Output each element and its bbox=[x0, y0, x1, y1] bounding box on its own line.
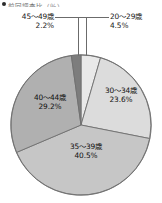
callout-20-29-percent: 4.5% bbox=[110, 21, 162, 30]
slice-30-34-name: 30〜34歳 bbox=[105, 86, 137, 95]
pie-chart bbox=[10, 54, 152, 196]
callout-label-45-49: 45〜49歳 2.2% bbox=[4, 12, 54, 31]
header-fragment-text: 前回調査比（％） bbox=[8, 4, 64, 8]
slice-35-39-percent: 40.5% bbox=[50, 151, 122, 160]
bullet-icon bbox=[2, 2, 6, 6]
callout-45-49-percent: 2.2% bbox=[4, 21, 54, 30]
callout-45-49-name: 45〜49歳 bbox=[22, 12, 54, 21]
slice-40-44-percent: 29.2% bbox=[16, 102, 84, 111]
slice-label-40-44: 40〜44歳 29.2% bbox=[16, 93, 84, 112]
leader-line-20-29-horizontal bbox=[78, 17, 109, 18]
header-fragment: 前回調査比（％） bbox=[0, 0, 162, 7]
callout-label-20-29: 20〜29歳 4.5% bbox=[110, 12, 162, 31]
slice-30-34-percent: 23.6% bbox=[89, 95, 153, 104]
pie-slice-group bbox=[11, 55, 151, 195]
pie-chart-svg bbox=[10, 54, 152, 196]
slice-35-39-name: 35〜39歳 bbox=[70, 142, 102, 151]
leader-line-45-49-vertical bbox=[86, 17, 87, 58]
callout-20-29-name: 20〜29歳 bbox=[110, 12, 142, 21]
slice-label-30-34: 30〜34歳 23.6% bbox=[89, 86, 153, 105]
slice-40-44-name: 40〜44歳 bbox=[34, 93, 66, 102]
slice-label-35-39: 35〜39歳 40.5% bbox=[50, 142, 122, 161]
